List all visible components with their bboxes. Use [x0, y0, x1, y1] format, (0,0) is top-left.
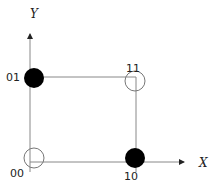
- x-axis-label: X: [198, 156, 208, 170]
- point-01-filled-circle: [24, 68, 44, 88]
- point-10-label: 10: [124, 170, 138, 183]
- point-01-label: 01: [6, 71, 20, 84]
- point-00-open-circle: [24, 148, 44, 168]
- diagram-svg: Y X 00 01 11 10: [0, 0, 215, 194]
- point-11-label: 11: [126, 62, 140, 75]
- xor-diagram: Y X 00 01 11 10: [0, 0, 215, 194]
- point-10-filled-circle: [125, 148, 145, 168]
- point-00-label: 00: [10, 167, 24, 180]
- y-axis-label: Y: [30, 7, 39, 21]
